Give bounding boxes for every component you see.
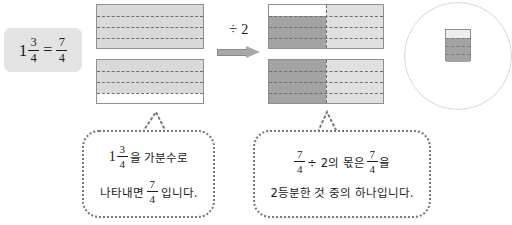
bar-2	[96, 59, 204, 104]
right-explanation-bubble: 7 4 ÷ 2의 몫은 7 4 을 2등분한 것 중의 하나입니다.	[253, 130, 431, 218]
bar-1	[268, 4, 384, 49]
divide-operator-group: ÷ 2	[215, 22, 263, 64]
equation-chip: 1 3 4 = 7 4	[4, 28, 82, 72]
magnifier-mini-diagram	[445, 29, 471, 61]
bubble-text-post: 을	[379, 154, 390, 170]
fraction: 3 4	[117, 144, 128, 170]
arrow-head	[246, 46, 260, 58]
denominator: 4	[118, 159, 126, 170]
left-half-shaded	[269, 16, 326, 49]
bubble-line-2: 2등분한 것 중의 하나입니다.	[271, 184, 414, 200]
bubble-text-mid: ÷ 2의 몫은	[307, 154, 364, 170]
center-divider-line	[326, 5, 327, 48]
numerator: 7	[148, 179, 156, 190]
mixed-number: 1 3 4	[109, 144, 128, 170]
denominator: 4	[148, 194, 156, 205]
denominator: 4	[296, 164, 304, 175]
bubble-text: 을 가분수로	[130, 149, 189, 165]
arrow-shaft	[217, 49, 248, 56]
fraction-three-quarters: 3 4	[28, 36, 39, 65]
right-arrow-icon	[217, 46, 261, 59]
divider-line	[97, 93, 203, 94]
mini-shaded-area	[446, 38, 470, 62]
whole-part: 1	[109, 150, 116, 164]
divider-line	[97, 82, 203, 83]
bubble-text-pre: 나타내면	[100, 184, 144, 200]
numerator: 3	[118, 144, 126, 155]
numerator: 3	[30, 36, 38, 49]
bubble-line-1: 7 4 ÷ 2의 몫은 7 4 을	[294, 149, 389, 175]
fraction: 7 4	[367, 149, 378, 175]
divider-line	[97, 16, 203, 17]
mini-divider-line	[446, 38, 470, 39]
fraction: 7 4	[294, 149, 305, 175]
bubble-line-1: 1 3 4 을 가분수로	[109, 144, 189, 170]
fraction-bar	[367, 161, 378, 162]
fraction-bar	[117, 156, 128, 157]
bar-2	[268, 59, 384, 104]
divider-line	[97, 71, 203, 72]
divider-line	[97, 27, 203, 28]
denominator: 4	[30, 52, 38, 65]
denominator: 4	[368, 164, 376, 175]
fraction: 7 4	[147, 179, 158, 205]
right-fraction-diagram	[268, 4, 384, 104]
mini-divider-line	[446, 54, 470, 55]
numerator: 7	[368, 149, 376, 160]
left-fraction-diagram	[96, 4, 204, 104]
fraction-bar	[294, 161, 305, 162]
fraction-seven-quarters: 7 4	[56, 36, 67, 65]
numerator: 7	[58, 36, 66, 49]
magnifier-callout	[404, 2, 512, 110]
divider-line	[97, 38, 203, 39]
bubble-text: 2등분한 것 중의 하나입니다.	[271, 184, 414, 200]
unshaded-cell	[269, 5, 326, 16]
fraction-bar	[147, 191, 158, 192]
numerator: 7	[296, 149, 304, 160]
bubble-line-2: 나타내면 7 4 입니다.	[100, 179, 198, 205]
whole-part: 1	[19, 42, 28, 59]
left-explanation-bubble: 1 3 4 을 가분수로 나타내면 7 4 입니다.	[82, 130, 215, 218]
denominator: 4	[58, 52, 66, 65]
center-divider-line	[326, 60, 327, 103]
divide-label: ÷ 2	[215, 22, 263, 38]
mixed-number: 1 3 4	[19, 36, 40, 65]
mini-divider-line	[446, 46, 470, 47]
equals-sign: =	[43, 41, 52, 59]
unshaded-row	[97, 93, 203, 104]
bubble-text-post: 입니다.	[161, 184, 198, 200]
bar-1	[96, 4, 204, 49]
